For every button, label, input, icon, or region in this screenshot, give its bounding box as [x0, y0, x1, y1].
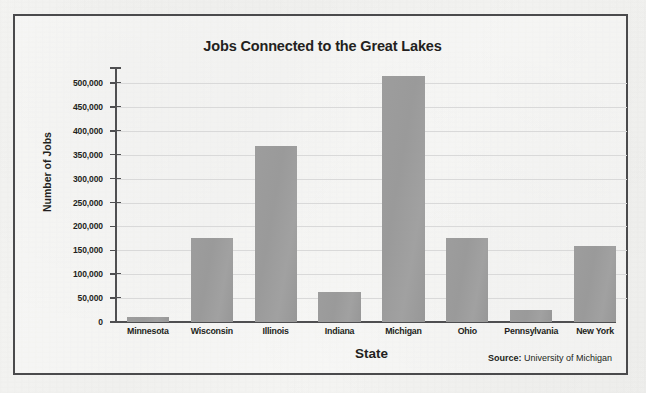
x-axis-tick-label: Minnesota	[116, 326, 180, 336]
x-axis-tick-label: New York	[563, 326, 627, 336]
y-axis-tick-label: 0	[29, 317, 103, 327]
y-axis-tick-label: 450,000	[29, 102, 103, 112]
x-axis-tick-label: Illinois	[244, 326, 308, 336]
figure-page: Jobs Connected to the Great Lakes Number…	[0, 0, 646, 393]
x-axis-tick-label: Michigan	[372, 326, 436, 336]
y-axis-tick-label: 200,000	[29, 221, 103, 231]
bar	[191, 238, 233, 322]
source-text: University of Michigan	[521, 353, 612, 363]
gridline	[117, 131, 627, 132]
figure-frame: Jobs Connected to the Great Lakes Number…	[13, 14, 628, 375]
gridline	[117, 107, 627, 108]
bar	[382, 76, 424, 322]
y-axis-tick-label: 350,000	[29, 150, 103, 160]
gridline	[117, 179, 627, 180]
chart-title: Jobs Connected to the Great Lakes	[15, 38, 630, 54]
plot-area	[116, 71, 627, 322]
source-note: Source: University of Michigan	[488, 353, 612, 363]
bar	[127, 317, 169, 322]
y-axis-tick-label: 100,000	[29, 269, 103, 279]
gridline	[117, 155, 627, 156]
y-axis-tick-label: 50,000	[29, 293, 103, 303]
gridline	[117, 226, 627, 227]
x-axis-tick-label: Wisconsin	[180, 326, 244, 336]
bar	[510, 310, 552, 322]
bar	[255, 146, 297, 322]
source-label: Source:	[488, 353, 522, 363]
y-axis-tick-label: 300,000	[29, 174, 103, 184]
gridline	[117, 83, 627, 84]
y-axis-tick-label: 500,000	[29, 78, 103, 88]
x-axis-tick-label: Ohio	[435, 326, 499, 336]
gridline	[117, 203, 627, 204]
y-axis-tick-label: 400,000	[29, 126, 103, 136]
bar	[318, 292, 360, 322]
y-axis-tick-label: 150,000	[29, 245, 103, 255]
bar	[574, 246, 616, 322]
y-axis-tick-label: 250,000	[29, 198, 103, 208]
x-axis-tick-label: Indiana	[308, 326, 372, 336]
bar	[446, 238, 488, 322]
x-axis-tick-label: Pennsylvania	[499, 326, 563, 336]
